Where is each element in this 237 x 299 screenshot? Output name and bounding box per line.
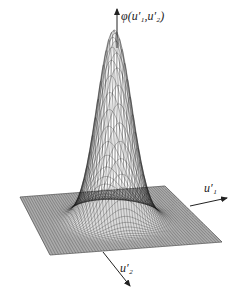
vertical-axis-label: φ(u′₁,u′₂) bbox=[121, 10, 164, 22]
u2-axis-label: u′₂ bbox=[120, 262, 133, 274]
u1-axis-label: u′₁ bbox=[204, 182, 217, 194]
surface-plot bbox=[0, 0, 237, 299]
u1-axis-arrow bbox=[190, 198, 227, 206]
